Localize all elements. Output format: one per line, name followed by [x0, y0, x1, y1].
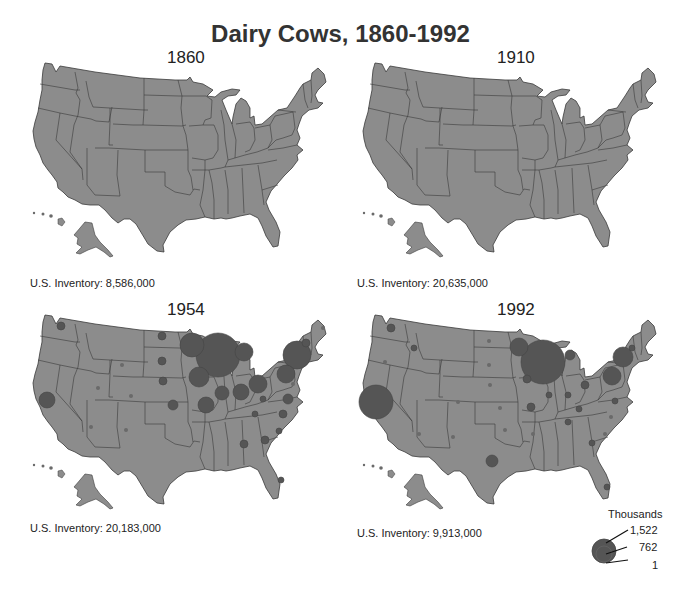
state-circle-wa	[57, 322, 65, 330]
state-circle-oh	[249, 375, 267, 393]
state-circle-mn	[180, 333, 204, 357]
inventory-1992: U.S. Inventory: 9,913,000	[357, 527, 482, 539]
state-circle-ar	[531, 432, 535, 436]
state-circle-ut	[96, 386, 100, 390]
state-circle-in	[233, 384, 249, 400]
state-circle-wa	[387, 324, 395, 332]
state-circle-ca	[39, 392, 55, 408]
state-circle-va	[283, 394, 293, 404]
state-circle-or	[383, 360, 387, 364]
state-circle-vt	[629, 345, 635, 351]
state-circle-sc	[276, 428, 282, 434]
state-circle-ga	[261, 436, 269, 444]
panel-1910-map	[363, 63, 656, 257]
state-circle-nc	[609, 415, 613, 419]
state-circle-sc	[603, 432, 607, 436]
state-circle-md	[291, 382, 295, 386]
legend-value-min: 1	[652, 559, 658, 571]
state-circle-sd	[158, 357, 166, 365]
state-circle-ks	[498, 406, 502, 410]
state-circle-al	[240, 440, 248, 448]
state-circle-me	[321, 326, 325, 330]
state-circle-nm	[124, 428, 128, 432]
state-circle-ia	[189, 367, 209, 387]
state-circle-nd	[158, 332, 166, 340]
state-circle-il	[215, 386, 229, 400]
state-circle-co	[456, 400, 460, 404]
legend-value-max: 1,522	[630, 524, 658, 536]
state-circle-az	[89, 425, 93, 429]
map-canvas	[0, 0, 681, 592]
state-circle-pa	[277, 365, 295, 383]
inventory-1860: U.S. Inventory: 8,586,000	[30, 277, 155, 289]
state-circle-ia	[523, 375, 531, 383]
state-circle-ga	[589, 440, 595, 446]
state-circle-sd	[487, 363, 491, 367]
panel-1860-map	[33, 63, 326, 257]
state-circle-wy	[120, 363, 124, 367]
state-circle-il	[546, 392, 552, 398]
state-circle-oh	[581, 381, 589, 389]
state-circle-co	[129, 394, 133, 398]
state-circle-ne	[159, 377, 167, 385]
state-circle-tn	[252, 411, 258, 417]
state-circle-ky	[260, 396, 266, 402]
state-circle-ca	[359, 385, 393, 419]
state-circle-mn	[510, 338, 528, 356]
state-circle-az	[417, 432, 421, 436]
state-circle-in	[565, 392, 571, 398]
state-circle-id	[411, 345, 417, 351]
inventory-1954: U.S. Inventory: 20,183,000	[30, 522, 161, 534]
state-circle-va	[612, 398, 618, 404]
state-circle-ks	[168, 400, 178, 410]
state-circle-ne	[488, 383, 492, 387]
legend-symbol	[592, 530, 628, 563]
state-circle-tn	[565, 419, 571, 425]
state-circle-fl	[604, 484, 610, 490]
legend-title: Thousands	[608, 508, 662, 520]
state-circle-fl	[278, 477, 284, 483]
state-circle-mo	[527, 403, 535, 411]
state-circle-mo	[198, 397, 214, 413]
state-circle-ky	[576, 406, 582, 412]
state-circle-nc	[279, 410, 287, 418]
inventory-1910: U.S. Inventory: 20,635,000	[357, 277, 488, 289]
panel-1992-map	[363, 315, 656, 509]
state-circle-nm	[451, 435, 455, 439]
state-circle-ok	[503, 428, 507, 432]
state-circle-mi	[565, 350, 575, 360]
legend-value-mid: 762	[639, 541, 657, 553]
state-circle-mi	[235, 343, 253, 361]
state-circle-pa	[603, 367, 621, 385]
state-circle-nd	[487, 339, 491, 343]
state-circle-tx	[486, 455, 498, 467]
state-circle-vt	[302, 339, 310, 347]
